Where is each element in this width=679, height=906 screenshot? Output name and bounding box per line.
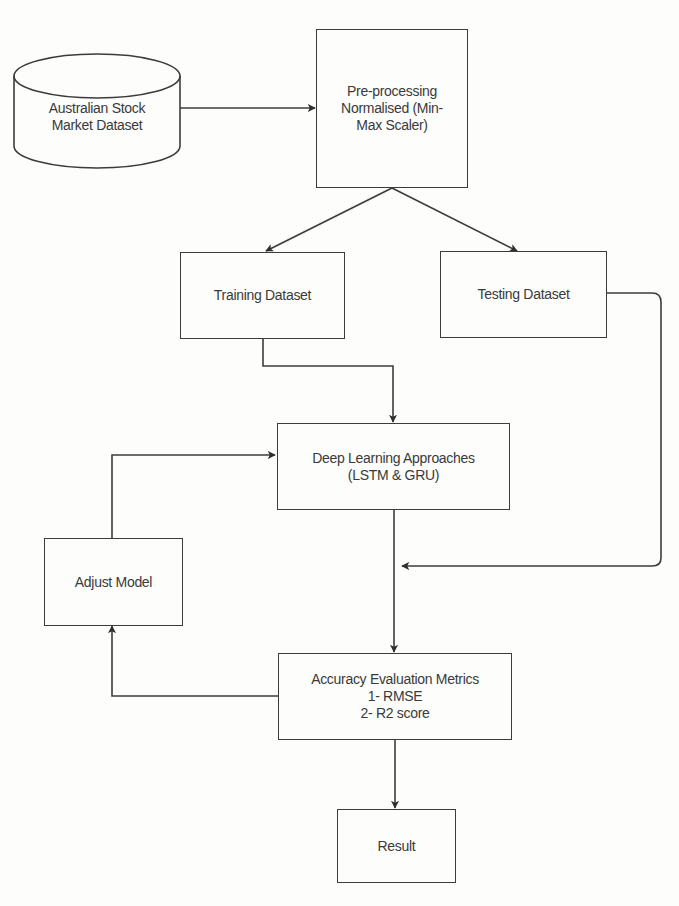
edge-preprocessing-to-training xyxy=(266,188,392,251)
node-result-label: Result xyxy=(378,838,416,855)
node-deep-learning-label: Deep Learning Approaches (LSTM & GRU) xyxy=(312,450,474,484)
edge-training-to-deep-learning xyxy=(263,338,393,422)
node-preprocessing: Pre-processing Normalised (Min- Max Scal… xyxy=(316,29,468,188)
node-dataset-label: Australian Stock Market Dataset xyxy=(13,100,181,134)
node-training-dataset-label: Training Dataset xyxy=(214,287,311,304)
node-accuracy-metrics: Accuracy Evaluation Metrics 1- RMSE 2- R… xyxy=(278,653,512,740)
node-testing-dataset: Testing Dataset xyxy=(440,251,607,338)
node-result: Result xyxy=(337,809,456,883)
node-adjust-model-label: Adjust Model xyxy=(75,574,152,591)
edge-adjust-model-to-deep-learning xyxy=(112,455,275,538)
node-training-dataset: Training Dataset xyxy=(180,252,345,339)
edge-preprocessing-to-testing xyxy=(392,188,517,251)
node-deep-learning: Deep Learning Approaches (LSTM & GRU) xyxy=(277,423,510,510)
node-testing-dataset-label: Testing Dataset xyxy=(478,286,570,303)
edge-accuracy-to-adjust-model xyxy=(112,626,278,696)
node-adjust-model: Adjust Model xyxy=(44,538,183,626)
node-accuracy-metrics-label: Accuracy Evaluation Metrics 1- RMSE 2- R… xyxy=(311,671,479,722)
flowchart-canvas: Australian Stock Market Dataset Pre-proc… xyxy=(0,0,679,906)
node-preprocessing-label: Pre-processing Normalised (Min- Max Scal… xyxy=(341,83,443,134)
